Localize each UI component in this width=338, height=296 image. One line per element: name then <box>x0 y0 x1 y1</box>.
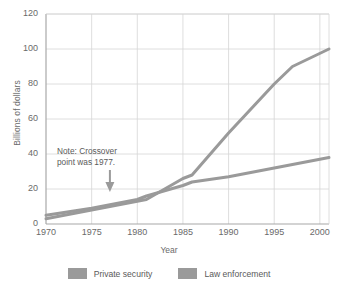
series-lines <box>46 49 329 219</box>
y-tick-label: 120 <box>4 8 38 18</box>
legend-item[interactable]: Law enforcement <box>178 268 270 279</box>
gridlines <box>46 14 329 224</box>
annotation-line-2: point was 1977. <box>57 157 149 168</box>
x-tick-label: 2000 <box>300 227 338 237</box>
legend-label: Private security <box>94 269 153 279</box>
y-tick-label: 40 <box>4 148 38 158</box>
x-tick-label: 1995 <box>254 227 294 237</box>
x-axis-label: Year <box>0 245 338 255</box>
legend-label: Law enforcement <box>204 269 270 279</box>
legend-swatch <box>68 268 87 279</box>
x-tick-label: 1975 <box>72 227 112 237</box>
y-tick-label: 100 <box>4 43 38 53</box>
crossover-annotation: Note: Crossover point was 1977. <box>57 146 149 168</box>
legend-item[interactable]: Private security <box>68 268 153 279</box>
y-tick-label: 20 <box>4 183 38 193</box>
x-tick-label: 1985 <box>163 227 203 237</box>
x-tick-label: 1970 <box>26 227 66 237</box>
legend-swatch <box>178 268 197 279</box>
legend: Private securityLaw enforcement <box>0 268 338 279</box>
x-tick-label: 1990 <box>209 227 249 237</box>
line-chart: Billions of dollars Year 020406080100120… <box>0 0 338 296</box>
x-tick-label: 1980 <box>117 227 157 237</box>
y-tick-label: 80 <box>4 78 38 88</box>
y-tick-label: 60 <box>4 113 38 123</box>
annotation-line-1: Note: Crossover <box>57 146 149 157</box>
